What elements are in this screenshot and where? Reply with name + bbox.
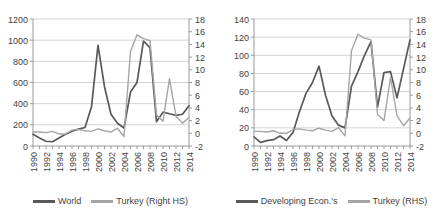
x-axis-tick-label: 2008 bbox=[146, 152, 156, 172]
legend-entry-turkey-rhs: Turkey (RHS) bbox=[348, 196, 428, 206]
right-axis-tick-label: 2 bbox=[195, 116, 200, 126]
left-axis-tick-label: 600 bbox=[13, 78, 28, 88]
legend-label-developing-econs: Developing Econ.'s bbox=[261, 196, 338, 206]
left-axis-tick-label: 800 bbox=[13, 57, 28, 67]
x-axis-tick-label: 2008 bbox=[367, 152, 377, 172]
x-axis-tick-label: 2000 bbox=[94, 152, 104, 172]
left-axis-tick-label: 100 bbox=[234, 51, 249, 61]
right-axis-tick-label: 16 bbox=[416, 27, 426, 37]
right-axis-tick-label: 6 bbox=[416, 91, 421, 101]
right-axis-tick-label: 4 bbox=[416, 103, 421, 113]
x-axis-tick-label: 2002 bbox=[328, 152, 338, 172]
x-axis-tick-label: 1996 bbox=[68, 152, 78, 172]
legend-world: World Turkey (Right HS) bbox=[0, 196, 221, 206]
left-axis-tick-label: 1000 bbox=[8, 36, 28, 46]
left-axis-tick-label: 40 bbox=[239, 105, 249, 115]
developing-chart-svg: 020406080100120140-202468101214161819901… bbox=[221, 0, 442, 208]
x-axis-tick-label: 1994 bbox=[276, 152, 286, 172]
x-axis-tick-label: 1990 bbox=[29, 152, 39, 172]
x-axis-tick-label: 2006 bbox=[354, 152, 364, 172]
legend-swatch-turkey-rhs bbox=[348, 200, 370, 203]
world-chart-svg: 020040060080010001200-202468101214161819… bbox=[0, 0, 221, 208]
x-axis-tick-label: 2010 bbox=[159, 152, 169, 172]
dual-chart-figure: 020040060080010001200-202468101214161819… bbox=[0, 0, 442, 208]
left-axis-tick-label: 140 bbox=[234, 15, 249, 25]
left-axis-tick-label: 400 bbox=[13, 99, 28, 109]
right-axis-tick-label: 0 bbox=[416, 129, 421, 139]
series-line bbox=[33, 41, 189, 142]
x-axis-tick-label: 2010 bbox=[380, 152, 390, 172]
legend-swatch-world bbox=[33, 200, 55, 203]
chart-panel-developing: 020406080100120140-202468101214161819901… bbox=[221, 0, 442, 208]
left-axis-tick-label: 120 bbox=[234, 33, 249, 43]
x-axis-tick-label: 2012 bbox=[172, 152, 182, 172]
right-axis-tick-label: 18 bbox=[416, 15, 426, 25]
x-axis-tick-label: 2012 bbox=[393, 152, 403, 172]
x-axis-tick-label: 2014 bbox=[406, 152, 416, 172]
legend-swatch-developing-econs bbox=[236, 200, 258, 203]
right-axis-tick-label: 0 bbox=[195, 129, 200, 139]
right-axis-tick-label: 12 bbox=[195, 53, 205, 63]
x-axis-tick-label: 1992 bbox=[42, 152, 52, 172]
x-axis-tick-label: 2004 bbox=[341, 152, 351, 172]
right-axis-tick-label: -2 bbox=[416, 142, 424, 152]
x-axis-tick-label: 2002 bbox=[107, 152, 117, 172]
right-axis-tick-label: 10 bbox=[195, 65, 205, 75]
right-axis-tick-label: 10 bbox=[416, 65, 426, 75]
left-axis-tick-label: 1200 bbox=[8, 15, 28, 25]
right-axis-tick-label: 16 bbox=[195, 27, 205, 37]
left-axis-tick-label: 0 bbox=[244, 142, 249, 152]
x-axis-tick-label: 2004 bbox=[120, 152, 130, 172]
right-axis-tick-label: -2 bbox=[195, 142, 203, 152]
right-axis-tick-label: 4 bbox=[195, 103, 200, 113]
series-line bbox=[254, 34, 410, 136]
legend-entry-developing-econs: Developing Econ.'s bbox=[236, 196, 338, 206]
legend-entry-world: World bbox=[33, 196, 81, 206]
right-axis-tick-label: 8 bbox=[195, 78, 200, 88]
right-axis-tick-label: 2 bbox=[416, 116, 421, 126]
x-axis-tick-label: 1992 bbox=[263, 152, 273, 172]
x-axis-tick-label: 2000 bbox=[315, 152, 325, 172]
legend-entry-turkey-right-hs: Turkey (Right HS) bbox=[91, 196, 188, 206]
left-axis-tick-label: 60 bbox=[239, 87, 249, 97]
x-axis-tick-label: 1998 bbox=[302, 152, 312, 172]
chart-panel-world: 020040060080010001200-202468101214161819… bbox=[0, 0, 221, 208]
x-axis-tick-label: 2006 bbox=[133, 152, 143, 172]
right-axis-tick-label: 6 bbox=[195, 91, 200, 101]
legend-label-world: World bbox=[58, 196, 81, 206]
right-axis-tick-label: 12 bbox=[416, 53, 426, 63]
x-axis-tick-label: 2014 bbox=[185, 152, 195, 172]
left-axis-tick-label: 0 bbox=[23, 142, 28, 152]
x-axis-tick-label: 1998 bbox=[81, 152, 91, 172]
legend-developing: Developing Econ.'s Turkey (RHS) bbox=[221, 196, 442, 206]
left-axis-tick-label: 200 bbox=[13, 120, 28, 130]
right-axis-tick-label: 18 bbox=[195, 15, 205, 25]
left-axis-tick-label: 20 bbox=[239, 123, 249, 133]
x-axis-tick-label: 1994 bbox=[55, 152, 65, 172]
right-axis-tick-label: 8 bbox=[416, 78, 421, 88]
legend-label-turkey-rhs: Turkey (RHS) bbox=[373, 196, 428, 206]
x-axis-tick-label: 1996 bbox=[289, 152, 299, 172]
legend-swatch-turkey-right-hs bbox=[91, 200, 113, 203]
left-axis-tick-label: 80 bbox=[239, 69, 249, 79]
legend-label-turkey-right-hs: Turkey (Right HS) bbox=[116, 196, 188, 206]
x-axis-tick-label: 1990 bbox=[250, 152, 260, 172]
right-axis-tick-label: 14 bbox=[195, 40, 205, 50]
right-axis-tick-label: 14 bbox=[416, 40, 426, 50]
series-line bbox=[33, 35, 189, 137]
